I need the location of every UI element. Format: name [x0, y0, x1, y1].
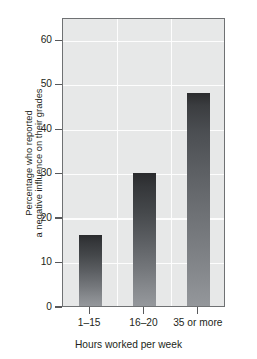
gridline-vertical: [117, 19, 118, 306]
y-tick-label: 10: [24, 256, 52, 267]
gridline-vertical: [171, 19, 172, 306]
x-tick-mark: [197, 307, 198, 314]
bar-16-20: [133, 173, 156, 306]
y-tick-mark: [55, 129, 62, 130]
plot-area: [62, 18, 225, 307]
bar-chart-figure: Percentage who reported a negative influ…: [0, 0, 257, 359]
x-tick-mark: [89, 307, 90, 314]
y-tick-label: 60: [24, 34, 52, 45]
x-tick-mark: [143, 307, 144, 314]
y-tick-label: 50: [24, 78, 52, 89]
x-axis-title: Hours worked per week: [0, 339, 257, 350]
y-tick-mark: [55, 217, 62, 218]
y-tick-label: 40: [24, 123, 52, 134]
y-tick-mark: [55, 306, 62, 307]
gridline-horizontal: [63, 85, 224, 86]
y-tick-mark: [55, 84, 62, 85]
bar-1-15: [79, 235, 102, 306]
y-tick-mark: [55, 173, 62, 174]
x-tick-label: 35 or more: [153, 317, 243, 328]
bar-35-or-more: [187, 93, 210, 306]
y-tick-mark: [55, 262, 62, 263]
y-tick-mark: [55, 40, 62, 41]
gridline-horizontal: [63, 41, 224, 42]
y-tick-label: 30: [24, 167, 52, 178]
y-tick-label: 20: [24, 212, 52, 223]
y-tick-label: 0: [24, 301, 52, 312]
